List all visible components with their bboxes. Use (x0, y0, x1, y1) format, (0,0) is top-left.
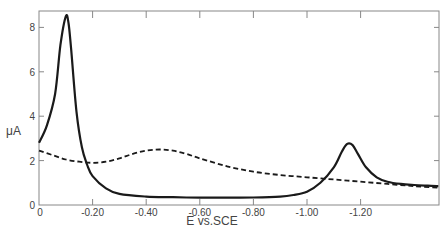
y-axis-title: μA (6, 124, 21, 138)
plot-frame (39, 11, 439, 205)
x-tick-label: -1.20 (349, 207, 372, 218)
solid-curve (39, 15, 438, 198)
y-tick-label: 6 (29, 67, 35, 78)
voltammogram-chart: 02468 0-0.20-0.40-0.60-0.80-1.00-1.20 μA… (0, 0, 446, 237)
y-tick-label: 2 (29, 156, 35, 167)
x-axis: 0-0.20-0.40-0.60-0.80-1.00-1.20 (37, 11, 372, 218)
x-tick-label: -1.00 (296, 207, 319, 218)
x-tick-label: 0 (37, 207, 43, 218)
x-tick-label: -0.80 (242, 207, 265, 218)
x-tick-label: -0.20 (81, 207, 104, 218)
y-tick-label: 4 (29, 111, 35, 122)
y-tick-label: 8 (29, 22, 35, 33)
data-series (39, 15, 438, 198)
y-tick-label: 0 (29, 200, 35, 211)
x-tick-label: -0.40 (135, 207, 158, 218)
plot-border (39, 11, 439, 205)
x-axis-title: E vs.SCE (186, 214, 237, 228)
